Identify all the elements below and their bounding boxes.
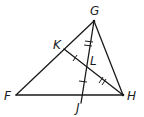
segment-gf xyxy=(16,21,94,95)
triangle-diagram: G F H J K L xyxy=(0,0,144,117)
label-j: J xyxy=(74,101,80,115)
point-h xyxy=(122,94,125,97)
label-k: K xyxy=(53,38,62,52)
label-f: F xyxy=(4,89,12,103)
double-tick-gl xyxy=(84,41,93,46)
label-h: H xyxy=(127,89,136,103)
label-g: G xyxy=(90,4,99,18)
single-tick-lj xyxy=(79,81,87,82)
double-tick-lh xyxy=(99,77,106,85)
point-g xyxy=(93,20,96,23)
label-l: L xyxy=(90,54,97,68)
